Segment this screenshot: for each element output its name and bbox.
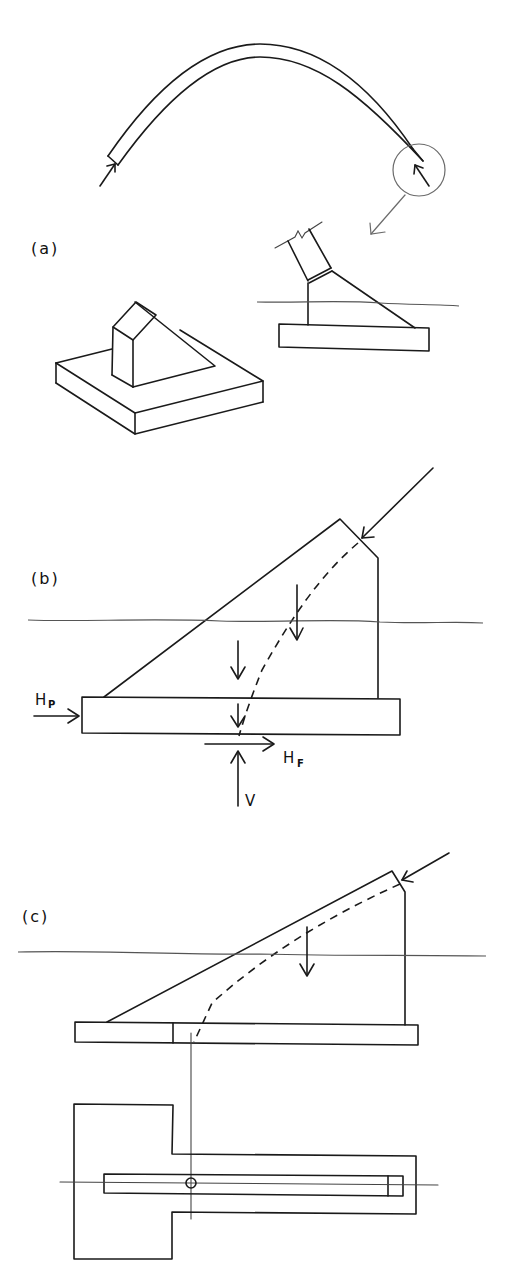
thrust-arrow-left-icon <box>100 164 115 186</box>
springing-detail <box>257 222 459 351</box>
panel-label-b: (b) <box>31 569 60 588</box>
thrust-arrow-right-icon <box>414 165 429 186</box>
weight-arrow-c-icon <box>300 927 314 976</box>
hf-symbol: H <box>283 749 294 767</box>
isometric-abutment <box>56 302 263 434</box>
abutment-elevation-c <box>18 853 486 1259</box>
arch <box>100 44 445 234</box>
panel-label-c: (c) <box>22 907 49 926</box>
v-symbol: V <box>245 792 256 810</box>
abutment-diagram: (a) (b) <box>0 0 512 1263</box>
passive-force-arrow-icon <box>34 709 79 723</box>
vertical-reaction-arrow-icon <box>231 751 245 806</box>
hp-symbol: H <box>35 691 46 709</box>
hf-subscript: F <box>297 758 304 769</box>
weight-arrow-middle-icon <box>231 641 245 679</box>
weight-arrow-upper-icon <box>290 585 303 640</box>
inclined-thrust-arrow-c-icon <box>402 853 449 882</box>
abutment-elevation-b: H P H F V <box>28 468 483 810</box>
detail-pointer-arrow-icon <box>370 195 405 234</box>
panel-label-a: (a) <box>31 239 59 258</box>
plan-view <box>60 1104 438 1259</box>
hp-subscript: P <box>48 699 55 710</box>
friction-force-arrow-icon <box>205 737 274 751</box>
inclined-thrust-arrow-icon <box>362 468 433 538</box>
